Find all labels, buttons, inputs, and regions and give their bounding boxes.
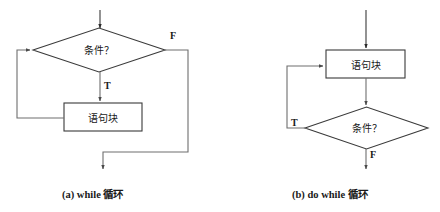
branch-label-true: T bbox=[104, 80, 111, 91]
flowchart-figure: 条件？ F T 语句块 语句块 条件？ bbox=[0, 0, 440, 212]
edge-statement-back-to-condition bbox=[17, 50, 64, 118]
condition-diamond-label: 条件？ bbox=[84, 44, 114, 56]
statement-box-label: 语句块 bbox=[88, 112, 118, 124]
caption-while-loop: (a) while 循环 bbox=[62, 186, 123, 201]
flowchart-canvas: 条件？ F T 语句块 语句块 条件？ bbox=[0, 0, 440, 212]
diagram-do-while-loop: 语句块 条件？ T F bbox=[287, 10, 428, 169]
branch-label-false: F bbox=[370, 149, 376, 160]
statement-box-label: 语句块 bbox=[351, 59, 381, 71]
diagram-while-loop: 条件？ F T 语句块 bbox=[17, 10, 188, 169]
branch-label-false: F bbox=[170, 30, 176, 41]
condition-diamond-label: 条件？ bbox=[352, 122, 382, 134]
branch-label-true: T bbox=[291, 117, 298, 128]
caption-do-while-loop: (b) do while 循环 bbox=[292, 186, 368, 201]
